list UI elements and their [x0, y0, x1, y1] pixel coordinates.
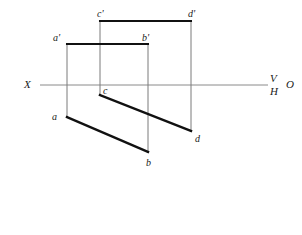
label-a-front: a' [53, 33, 60, 43]
object-lines-group [67, 21, 191, 152]
label-d-front: d' [188, 9, 195, 19]
vertex-dot-d-front [190, 20, 192, 22]
label-b-front: b' [142, 33, 149, 43]
top-line-c-d [100, 95, 191, 131]
label-a-top: a [52, 112, 57, 122]
label-c-top: c [103, 86, 107, 96]
vertex-dot-a-top [66, 116, 68, 118]
projector-lines-group [67, 21, 191, 152]
axis-label-x: X [24, 79, 31, 90]
axis-label-h: H [270, 86, 278, 97]
vertex-dot-d-top [190, 130, 192, 132]
projection-diagram [0, 0, 302, 235]
label-d-top: d [195, 134, 200, 144]
axis-label-o: O [286, 79, 294, 90]
vertex-dot-b-front [147, 43, 149, 45]
axis-label-v: V [270, 73, 277, 84]
vertex-dot-c-front [99, 20, 101, 22]
label-b-top: b [146, 158, 151, 168]
drawing-canvas: a' b' c' d' a b c d X V H O [0, 0, 302, 235]
vertex-dots-group [66, 20, 192, 153]
vertex-dot-a-front [66, 43, 68, 45]
vertex-dot-c-top [99, 94, 101, 96]
label-c-front: c' [97, 9, 104, 19]
vertex-dot-b-top [147, 151, 149, 153]
top-line-a-b [67, 117, 148, 152]
